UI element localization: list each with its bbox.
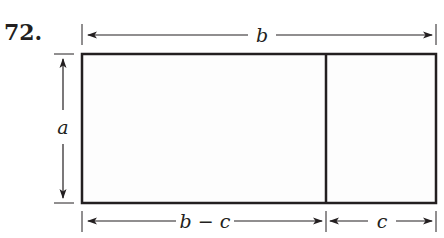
bottom-dimension: b − c c: [82, 210, 436, 232]
left-dimension: a: [54, 54, 74, 203]
label-b-minus-c: b − c: [180, 210, 231, 232]
label-c: c: [377, 210, 388, 232]
label-b: b: [256, 24, 268, 46]
label-a: a: [57, 116, 68, 138]
top-dimension: b: [82, 24, 436, 46]
rectangle-diagram: 72. b a b − c c: [0, 0, 444, 238]
problem-number: 72.: [4, 19, 42, 45]
outer-rectangle: [82, 54, 436, 203]
